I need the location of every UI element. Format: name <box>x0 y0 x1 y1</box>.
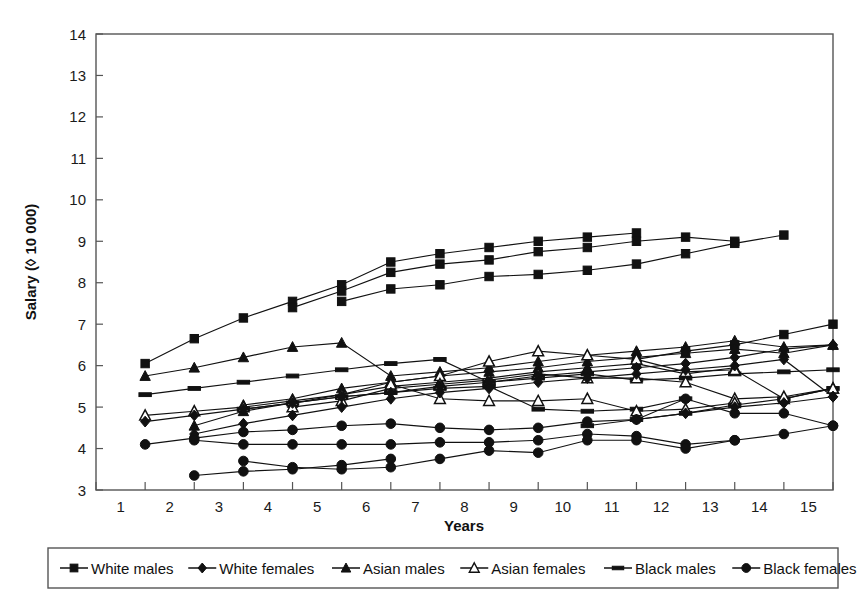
x-tick-label: 11 <box>604 498 620 515</box>
filled-circle-marker <box>239 440 249 450</box>
y-axis-title: Salary (◊ 10 000) <box>22 204 39 321</box>
chart-background <box>0 0 865 604</box>
legend-label: Black males <box>635 560 716 577</box>
salary-by-years-line-chart: 34567891011121314 123456789101112131415 … <box>0 0 865 604</box>
filled-circle-marker <box>730 435 740 445</box>
legend-label: White females <box>219 560 314 577</box>
x-tick-label: 6 <box>362 498 370 515</box>
dash-marker <box>335 368 347 372</box>
dash-marker <box>581 409 593 413</box>
filled-circle-marker <box>533 423 543 433</box>
filled-square-marker <box>387 258 395 266</box>
x-axis-title: Years <box>444 517 484 534</box>
filled-circle-marker <box>189 435 199 445</box>
dash-marker <box>237 380 249 384</box>
filled-circle-marker <box>583 435 593 445</box>
filled-circle-marker <box>337 460 347 470</box>
filled-square-marker <box>583 233 591 241</box>
legend-label: Asian males <box>363 560 445 577</box>
filled-circle-marker <box>239 467 249 477</box>
filled-square-marker <box>70 564 78 572</box>
filled-circle-marker <box>681 444 691 454</box>
filled-square-marker <box>583 243 591 251</box>
y-tick-label: 9 <box>78 233 86 250</box>
x-tick-label: 2 <box>166 498 174 515</box>
x-tick-label: 14 <box>751 498 768 515</box>
x-tick-label: 12 <box>653 498 670 515</box>
filled-circle-marker <box>337 440 347 450</box>
chart-figure: 34567891011121314 123456789101112131415 … <box>0 0 865 604</box>
y-tick-label: 6 <box>78 357 86 374</box>
legend-label: Asian females <box>491 560 585 577</box>
filled-circle-marker <box>288 425 298 435</box>
dash-marker <box>612 566 623 569</box>
filled-circle-marker <box>632 435 642 445</box>
dash-marker <box>532 407 544 411</box>
x-tick-label: 15 <box>800 498 817 515</box>
y-tick-label: 12 <box>69 108 86 125</box>
filled-square-marker <box>632 229 640 237</box>
filled-circle-marker <box>742 564 751 573</box>
x-tick-label: 3 <box>215 498 223 515</box>
filled-square-marker <box>337 287 345 295</box>
x-tick-label: 9 <box>509 498 517 515</box>
y-tick-label: 7 <box>78 316 86 333</box>
x-tick-label: 8 <box>460 498 468 515</box>
filled-circle-marker <box>386 454 396 464</box>
x-tick-label: 5 <box>313 498 321 515</box>
y-tick-label: 11 <box>70 150 86 167</box>
filled-square-marker <box>387 285 395 293</box>
filled-circle-marker <box>779 429 789 439</box>
dash-marker <box>778 370 790 374</box>
y-tick-label: 10 <box>69 191 86 208</box>
filled-square-marker <box>583 266 591 274</box>
filled-circle-marker <box>484 446 494 456</box>
x-tick-label: 1 <box>116 498 124 515</box>
filled-circle-marker <box>632 415 642 425</box>
filled-square-marker <box>534 270 542 278</box>
dash-marker <box>385 362 397 366</box>
filled-circle-marker <box>288 464 298 474</box>
y-tick-label: 8 <box>78 274 86 291</box>
filled-square-marker <box>780 231 788 239</box>
dash-marker <box>188 387 200 391</box>
filled-square-marker <box>681 250 689 258</box>
filled-circle-marker <box>533 448 543 458</box>
filled-circle-marker <box>484 425 494 435</box>
filled-circle-marker <box>386 440 396 450</box>
dash-marker <box>434 358 446 362</box>
filled-circle-marker <box>779 409 789 419</box>
filled-square-marker <box>190 334 198 342</box>
filled-square-marker <box>239 314 247 322</box>
filled-square-marker <box>337 297 345 305</box>
legend-label: White males <box>91 560 174 577</box>
filled-square-marker <box>829 320 837 328</box>
filled-square-marker <box>485 256 493 264</box>
filled-circle-marker <box>140 440 150 450</box>
filled-square-marker <box>681 233 689 241</box>
filled-circle-marker <box>828 421 838 431</box>
legend-label: Black females <box>763 560 856 577</box>
filled-square-marker <box>534 237 542 245</box>
y-tick-label: 3 <box>78 482 86 499</box>
filled-circle-marker <box>435 438 445 448</box>
dash-marker <box>139 393 151 397</box>
dash-marker <box>827 368 839 372</box>
y-tick-label: 14 <box>69 26 86 43</box>
y-tick-label: 4 <box>78 440 86 457</box>
filled-circle-marker <box>288 440 298 450</box>
filled-circle-marker <box>681 394 691 404</box>
x-tick-label: 7 <box>411 498 419 515</box>
filled-square-marker <box>436 281 444 289</box>
filled-circle-marker <box>583 417 593 427</box>
y-tick-label: 5 <box>78 399 86 416</box>
filled-square-marker <box>780 330 788 338</box>
filled-square-marker <box>731 239 739 247</box>
dash-marker <box>286 374 298 378</box>
x-tick-label: 13 <box>702 498 719 515</box>
filled-square-marker <box>436 250 444 258</box>
filled-square-marker <box>534 247 542 255</box>
filled-circle-marker <box>533 435 543 445</box>
filled-circle-marker <box>239 427 249 437</box>
filled-square-marker <box>141 359 149 367</box>
